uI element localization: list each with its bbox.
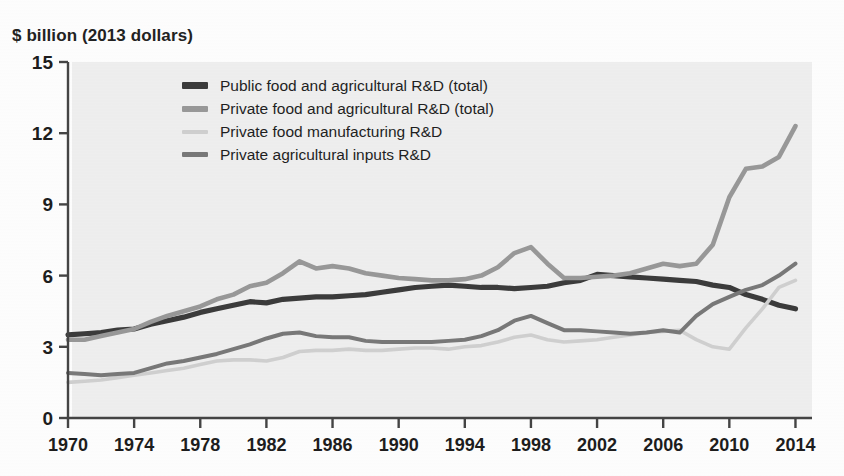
x-tick-1970: 1970 (48, 435, 88, 455)
x-tick-1982: 1982 (246, 435, 286, 455)
legend-swatch-icon-2 (182, 130, 208, 134)
chart-legend: Public food and agricultural R&D (total)… (182, 74, 602, 166)
y-tick-15: 15 (32, 52, 54, 73)
x-tick-2010: 2010 (709, 435, 749, 455)
x-tick-1990: 1990 (379, 435, 419, 455)
legend-swatch-icon-3 (182, 152, 208, 157)
x-tick-1998: 1998 (511, 435, 551, 455)
x-tick-1978: 1978 (180, 435, 220, 455)
y-tick-12: 12 (32, 123, 53, 144)
legend-item-1[interactable]: Private food and agricultural R&D (total… (182, 97, 602, 120)
line-chart-plot: 03691215 1970197419781982198619901994199… (0, 0, 844, 476)
legend-item-0[interactable]: Public food and agricultural R&D (total) (182, 74, 602, 97)
x-tick-2006: 2006 (643, 435, 683, 455)
legend-swatch-icon-1 (182, 106, 208, 112)
y-tick-3: 3 (42, 337, 53, 358)
chart-figure: $ billion (2013 dollars) 03691215 197019… (0, 0, 844, 476)
legend-item-3[interactable]: Private agricultural inputs R&D (182, 143, 602, 166)
legend-label-3: Private agricultural inputs R&D (220, 146, 431, 164)
legend-label-2: Private food manufacturing R&D (220, 123, 442, 141)
y-tick-labels: 03691215 (32, 52, 54, 429)
legend-item-2[interactable]: Private food manufacturing R&D (182, 120, 602, 143)
x-tick-1986: 1986 (313, 435, 353, 455)
x-tick-2002: 2002 (577, 435, 617, 455)
legend-label-1: Private food and agricultural R&D (total… (220, 100, 494, 118)
x-tick-labels: 1970197419781982198619901994199820022006… (48, 435, 816, 455)
y-tick-6: 6 (42, 266, 53, 287)
legend-label-0: Public food and agricultural R&D (total) (220, 77, 488, 95)
y-tick-9: 9 (42, 194, 53, 215)
y-tick-0: 0 (42, 408, 53, 429)
x-tick-1994: 1994 (445, 435, 485, 455)
x-tick-1974: 1974 (114, 435, 154, 455)
legend-swatch-icon-0 (182, 82, 208, 89)
x-tick-2014: 2014 (775, 435, 815, 455)
